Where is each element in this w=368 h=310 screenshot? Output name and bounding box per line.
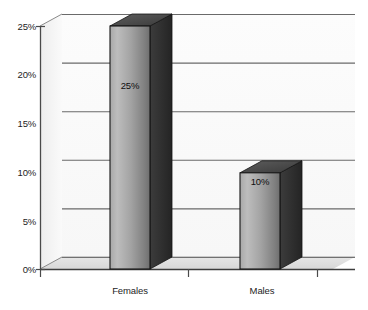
x-category-label-males: Males xyxy=(222,285,302,296)
bar-value-label-males: 10% xyxy=(236,176,284,187)
bar-males-front xyxy=(240,173,280,269)
chart-x-axis-ticks xyxy=(41,269,318,277)
bar-females-front xyxy=(110,26,150,269)
y-tick-label-0: 0% xyxy=(2,264,36,275)
y-tick-label-15: 15% xyxy=(2,118,36,129)
chart-container: 25% 20% 15% 10% 5% 0% 25% 10% Females Ma… xyxy=(0,0,368,310)
bar-females[interactable] xyxy=(110,14,172,269)
plot-back-wall xyxy=(62,14,355,257)
chart-y-axis-labels: 25% 20% 15% 10% 5% 0% xyxy=(0,0,36,310)
bar-females-side xyxy=(150,14,172,269)
y-tick-label-5: 5% xyxy=(2,216,36,227)
bar-value-label-females: 25% xyxy=(105,80,155,91)
plot-left-wall xyxy=(40,14,62,269)
y-tick-label-25: 25% xyxy=(2,21,36,32)
chart-plot-area xyxy=(0,0,368,310)
y-tick-label-20: 20% xyxy=(2,69,36,80)
y-tick-label-10: 10% xyxy=(2,167,36,178)
x-category-label-females: Females xyxy=(90,285,170,296)
plot-floor xyxy=(40,257,355,269)
